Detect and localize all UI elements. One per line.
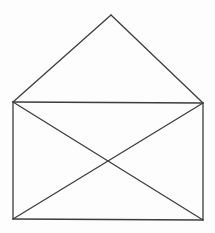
rect-top-edge-line xyxy=(13,102,203,103)
flap-right-edge-line xyxy=(111,15,203,103)
envelope-figure xyxy=(0,0,215,233)
envelope-line-drawing xyxy=(0,0,215,233)
rect-bottom-edge-line xyxy=(13,219,203,220)
flap-left-edge-line xyxy=(13,15,111,102)
